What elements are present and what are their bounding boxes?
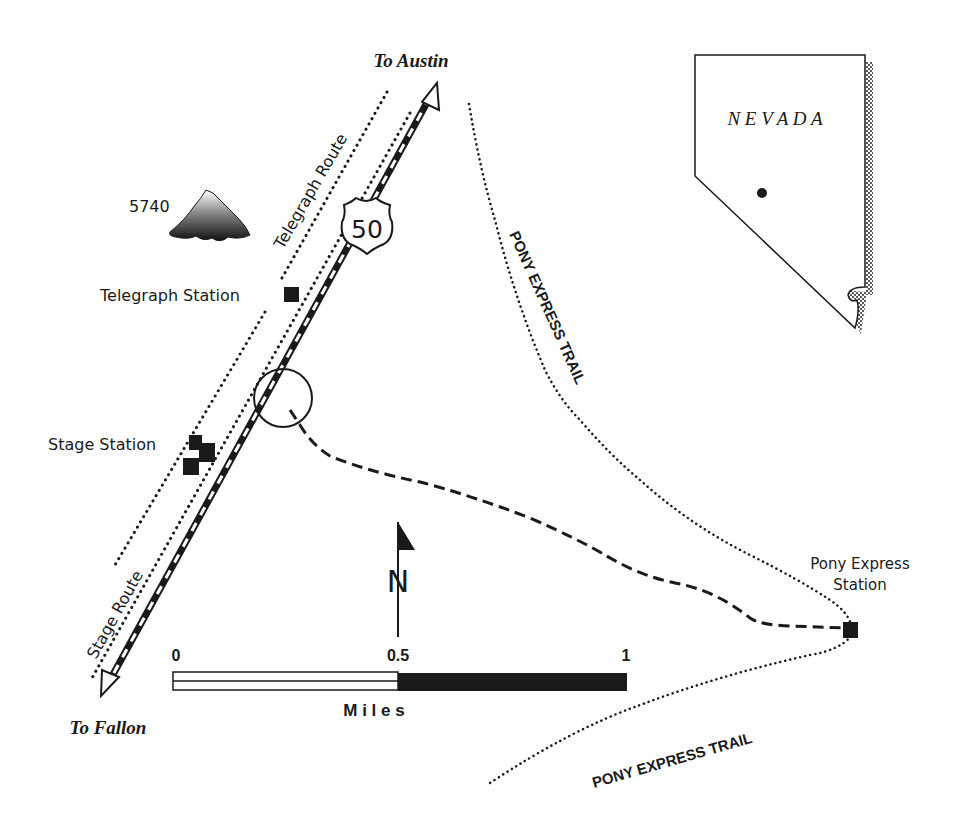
scale-tick-mid: 0.5 xyxy=(387,647,409,664)
highway-50-line xyxy=(110,97,430,680)
telegraph-station-marker xyxy=(284,287,299,302)
to-austin-label: To Austin xyxy=(373,50,448,71)
mountain-peak-icon xyxy=(170,190,250,241)
stage-station-label: Stage Station xyxy=(48,435,156,454)
nevada-shadow xyxy=(866,62,873,295)
nevada-outline xyxy=(695,55,865,328)
stage-route-label: Stage Route xyxy=(83,567,147,662)
map-canvas: 50 N 0 0.5 1 M i l e s To Austin To Fall… xyxy=(0,0,972,824)
scale-bar: 0 0.5 1 M i l e s xyxy=(172,647,631,720)
pony-express-trail-north-label: PONY EXPRESS TRAIL xyxy=(506,228,589,386)
pony-station-label-line2: Station xyxy=(833,576,886,594)
nevada-label: N E V A D A xyxy=(726,108,823,129)
connecting-road-dashed xyxy=(290,410,845,628)
pony-station-label-line1: Pony Express xyxy=(810,555,910,573)
telegraph-station-label: Telegraph Station xyxy=(99,286,240,305)
nevada-inset-map: N E V A D A xyxy=(695,55,873,334)
scale-tick-0: 0 xyxy=(172,647,181,664)
telegraph-route-line xyxy=(115,92,387,565)
scale-tick-end: 1 xyxy=(622,647,631,664)
peak-elevation-label: 5740 xyxy=(129,197,170,216)
pony-express-station-marker xyxy=(843,622,858,638)
shield-number: 50 xyxy=(351,215,383,244)
north-arrow: N xyxy=(387,522,415,637)
to-fallon-label: To Fallon xyxy=(70,717,147,738)
location-dot xyxy=(757,188,767,198)
north-label: N xyxy=(387,564,409,599)
scale-unit: M i l e s xyxy=(343,701,404,720)
pony-express-trail-south-label: PONY EXPRESS TRAIL xyxy=(590,729,754,791)
telegraph-route-label: Telegraph Route xyxy=(270,130,352,253)
